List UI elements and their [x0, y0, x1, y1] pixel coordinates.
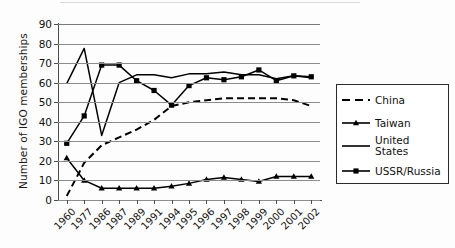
y-tick-label: 70	[26, 57, 52, 69]
x-tick-mark	[154, 200, 155, 204]
data-point-marker	[204, 75, 209, 80]
gridline	[58, 63, 320, 64]
y-tick-label: 40	[26, 116, 52, 128]
x-tick-mark	[102, 200, 103, 204]
legend-swatch-icon	[341, 117, 371, 129]
gridline	[58, 180, 320, 181]
legend-item-taiwan[interactable]: Taiwan	[341, 116, 411, 130]
data-point-marker	[64, 155, 70, 161]
legend-item-ussr-russia[interactable]: USSR/Russia	[341, 164, 441, 178]
legend-item-united-states[interactable]: United States	[341, 139, 445, 153]
gridline	[58, 83, 320, 84]
gridline	[58, 141, 320, 142]
gridline	[58, 44, 320, 45]
data-point-marker	[82, 113, 87, 118]
x-tick-mark	[311, 200, 312, 204]
x-tick-mark	[294, 200, 295, 204]
x-tick-mark	[137, 200, 138, 204]
data-point-marker	[221, 77, 226, 82]
data-point-marker	[151, 88, 156, 93]
y-tick-label: 80	[26, 38, 52, 50]
x-tick-mark	[206, 200, 207, 204]
y-tick-label: 50	[26, 96, 52, 108]
x-tick-mark	[276, 200, 277, 204]
legend-swatch-icon	[341, 94, 371, 106]
y-tick-label: 90	[26, 18, 52, 30]
x-tick-mark	[259, 200, 260, 204]
data-point-marker	[291, 73, 296, 78]
y-tick-label: 0	[26, 194, 52, 206]
y-tick-label: 60	[26, 77, 52, 89]
data-point-marker	[309, 74, 314, 79]
series-layer	[58, 24, 320, 200]
data-point-marker	[239, 74, 244, 79]
gridline	[58, 24, 320, 25]
legend-item-label: China	[375, 95, 405, 106]
x-tick-mark	[241, 200, 242, 204]
x-tick-mark	[84, 200, 85, 204]
x-tick-mark	[189, 200, 190, 204]
data-point-marker	[186, 83, 191, 88]
legend-swatch-icon	[341, 140, 371, 152]
chart-legend: ChinaTaiwanUnited StatesUSSR/Russia	[336, 84, 449, 184]
x-tick-mark	[67, 200, 68, 204]
chart-figure: Number of IGO memberships 01020304050607…	[0, 0, 455, 248]
gridline	[58, 122, 320, 123]
plot-area	[58, 24, 320, 200]
x-tick-mark	[224, 200, 225, 204]
x-tick-mark	[172, 200, 173, 204]
legend-item-label: USSR/Russia	[375, 166, 441, 177]
legend-swatch-icon	[341, 165, 371, 177]
legend-item-label: United States	[375, 135, 445, 157]
y-tick-label: 20	[26, 155, 52, 167]
y-tick-label: 30	[26, 135, 52, 147]
data-point-marker	[169, 103, 174, 108]
legend-item-label: Taiwan	[375, 118, 411, 129]
x-tick-mark	[119, 200, 120, 204]
top-rule	[60, 2, 360, 3]
y-tick-label: 10	[26, 174, 52, 186]
gridline	[58, 102, 320, 103]
data-point-marker	[256, 67, 261, 72]
legend-item-china[interactable]: China	[341, 93, 405, 107]
gridline	[58, 161, 320, 162]
